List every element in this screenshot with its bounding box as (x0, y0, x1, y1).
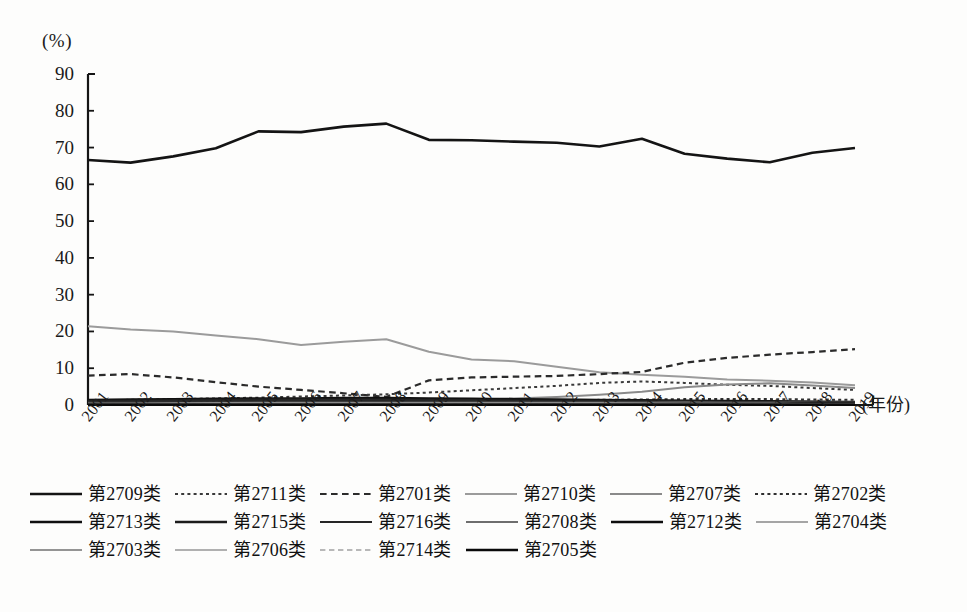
legend-swatch-icon (610, 486, 662, 498)
series-line (88, 124, 855, 163)
y-tick-label: 80 (40, 101, 74, 120)
legend-label: 第2707类 (668, 479, 741, 505)
y-tick-label: 70 (40, 138, 74, 157)
legend-swatch-icon (175, 542, 227, 554)
legend-label: 第2714类 (378, 535, 451, 561)
legend-label: 第2702类 (813, 479, 886, 505)
legend-swatch-icon (465, 486, 517, 498)
legend-swatch-icon (30, 486, 82, 498)
legend-swatch-icon (30, 514, 82, 526)
legend-swatch-icon (30, 542, 82, 554)
legend-item[interactable]: 第2702类 (755, 479, 886, 505)
y-tick-label: 10 (40, 358, 74, 377)
legend-label: 第2706类 (233, 535, 306, 561)
legend-item[interactable]: 第2714类 (320, 535, 451, 561)
y-tick-label: 30 (40, 285, 74, 304)
y-tick-label: 90 (40, 64, 74, 83)
series-layer (88, 124, 855, 405)
y-tick-label: 60 (40, 174, 74, 193)
legend-label: 第2715类 (233, 507, 306, 533)
legend-row: 第2709类第2711类第2701类第2710类第2707类第2702类 (30, 478, 938, 506)
legend-row: 第2713类第2715类第2716类第2708类第2712类第2704类 (30, 506, 938, 534)
legend-label: 第2712类 (669, 507, 742, 533)
legend-item[interactable]: 第2712类 (611, 507, 742, 533)
y-tick-label: 40 (40, 248, 74, 267)
legend-item[interactable]: 第2713类 (30, 507, 161, 533)
legend-item[interactable]: 第2704类 (756, 507, 887, 533)
legend-item[interactable]: 第2709类 (30, 479, 161, 505)
legend-swatch-icon (320, 514, 372, 526)
legend-label: 第2708类 (524, 507, 597, 533)
legend-item[interactable]: 第2701类 (320, 479, 451, 505)
legend-item[interactable]: 第2703类 (30, 535, 161, 561)
legend-item[interactable]: 第2715类 (175, 507, 306, 533)
legend-swatch-icon (755, 486, 807, 498)
y-tick-label: 20 (40, 321, 74, 340)
y-tick-label: 50 (40, 211, 74, 230)
legend-item[interactable]: 第2711类 (175, 479, 306, 505)
legend-swatch-icon (320, 486, 372, 498)
legend-swatch-icon (466, 542, 518, 554)
y-tick-label: 0 (40, 395, 74, 414)
legend-label: 第2704类 (814, 507, 887, 533)
legend-item[interactable]: 第2716类 (320, 507, 451, 533)
legend-label: 第2710类 (523, 479, 596, 505)
legend-swatch-icon (175, 514, 227, 526)
legend-label: 第2711类 (233, 479, 306, 505)
x-axis-title: (年份) (862, 390, 910, 416)
legend-item[interactable]: 第2705类 (466, 535, 597, 561)
legend-label: 第2713类 (88, 507, 161, 533)
chart-page: (%) 9080706050403020100 2001200220032004… (0, 0, 967, 612)
legend-swatch-icon (611, 514, 663, 526)
chart-legend: 第2709类第2711类第2701类第2710类第2707类第2702类第271… (30, 478, 938, 562)
legend-item[interactable]: 第2708类 (466, 507, 597, 533)
legend-swatch-icon (756, 514, 808, 526)
series-line (88, 326, 855, 385)
legend-row: 第2703类第2706类第2714类第2705类 (30, 534, 938, 562)
legend-item[interactable]: 第2707类 (610, 479, 741, 505)
legend-item[interactable]: 第2710类 (465, 479, 596, 505)
legend-swatch-icon (466, 514, 518, 526)
legend-label: 第2703类 (88, 535, 161, 561)
legend-swatch-icon (320, 542, 372, 554)
legend-label: 第2716类 (378, 507, 451, 533)
legend-item[interactable]: 第2706类 (175, 535, 306, 561)
legend-swatch-icon (175, 486, 227, 498)
legend-label: 第2701类 (378, 479, 451, 505)
legend-label: 第2709类 (88, 479, 161, 505)
legend-label: 第2705类 (524, 535, 597, 561)
